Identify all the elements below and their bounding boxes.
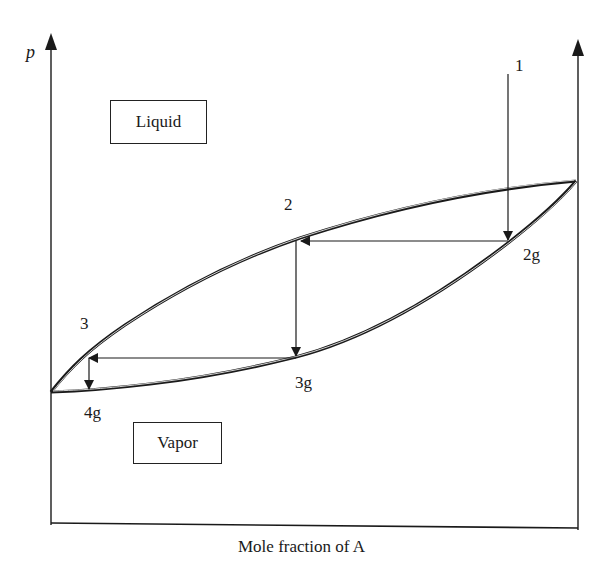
point-label-1: 1 xyxy=(515,57,524,74)
point-label-2g: 2g xyxy=(523,246,540,263)
liquid-region-label: Liquid xyxy=(136,112,181,132)
vapor-curve xyxy=(51,181,576,392)
y-axis-arrowhead-icon xyxy=(45,33,57,50)
liquid-curve xyxy=(51,180,576,392)
point-label-3: 3 xyxy=(80,315,89,332)
x-axis-label: Mole fraction of A xyxy=(238,538,365,555)
point-label-4g: 4g xyxy=(84,404,101,421)
y-axis-label: p xyxy=(26,43,35,61)
y-axis-left xyxy=(45,33,57,525)
point-label-3g: 3g xyxy=(295,374,312,391)
x-axis xyxy=(51,523,578,528)
y-axis-right xyxy=(572,39,584,530)
phase-diagram-canvas xyxy=(0,0,611,573)
liquid-region-box: Liquid xyxy=(110,100,207,144)
point-label-2: 2 xyxy=(284,196,293,213)
vapor-region-box: Vapor xyxy=(133,422,222,464)
vapor-region-label: Vapor xyxy=(157,433,198,453)
right-axis-arrowhead-icon xyxy=(572,39,584,56)
